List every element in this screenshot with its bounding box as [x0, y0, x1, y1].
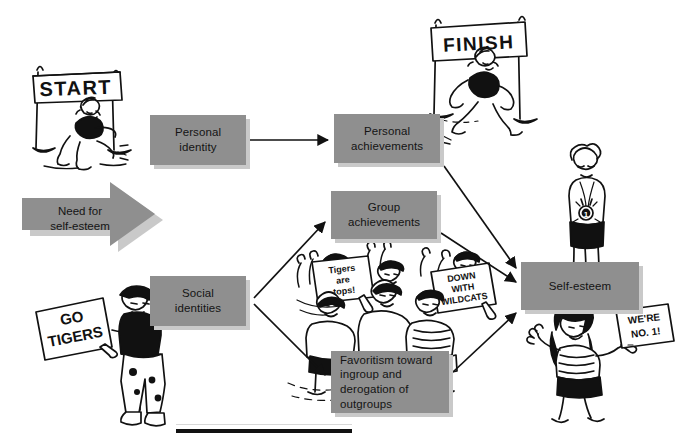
node-line1: Self-esteem [549, 279, 611, 294]
node-line3: derogation of [340, 383, 408, 395]
node-personal-achievements[interactable]: Personalachievements [334, 114, 440, 163]
node-self-esteem[interactable]: Self-esteem [521, 262, 639, 310]
need-for-self-esteem-arrow: Need for self-esteem [22, 182, 167, 256]
node-group-achievements[interactable]: Groupachievements [331, 191, 437, 239]
need-for-self-esteem-label: Need for self-esteem [34, 182, 126, 256]
edge-social-to-group-achievements [254, 222, 325, 298]
node-line1: Personal [175, 126, 221, 138]
need-label-line2: self-esteem [50, 220, 109, 232]
node-line1: Favoritism toward [340, 354, 432, 366]
node-favoritism[interactable]: Favoritism toward ingroup and derogation… [331, 351, 449, 413]
diagram-canvas: START FINISH 1 GO TIGERS Tigers are tops… [0, 0, 682, 442]
node-personal-identity[interactable]: Personalidentity [150, 115, 246, 165]
footer-rule [176, 429, 352, 433]
node-line1: Group [368, 201, 400, 213]
node-line2: achievements [348, 216, 420, 228]
node-line2: identities [175, 302, 221, 314]
node-line2: achievements [351, 140, 423, 152]
node-social-identities[interactable]: Socialidentities [150, 276, 246, 326]
need-label-line1: Need for [58, 205, 102, 217]
footer-hairline [176, 424, 352, 425]
edge-group-achievements-to-self-esteem [441, 233, 516, 282]
node-line4: outgroups [340, 398, 392, 410]
node-line2: identity [179, 141, 216, 153]
edge-social-to-favoritism [254, 304, 325, 375]
node-line1: Personal [364, 125, 410, 137]
node-line1: Social [182, 287, 214, 299]
edge-favoritism-to-self-esteem [453, 313, 516, 372]
edge-personal-achievements-to-self-esteem [444, 166, 516, 268]
node-line2: ingroup and [340, 368, 402, 380]
